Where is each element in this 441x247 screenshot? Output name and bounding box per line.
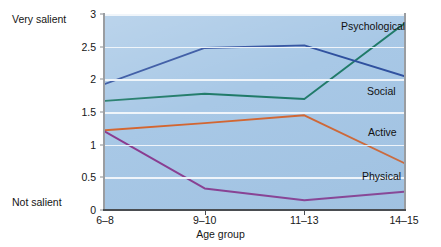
plot-right-border [404, 13, 406, 211]
x-axis-tick-label: 11–13 [290, 214, 318, 226]
y-axis-tick-label: 2.5 [81, 41, 96, 53]
y-axis-tick-label: 3 [90, 8, 96, 20]
y-axis-line [103, 13, 105, 211]
gridline [105, 145, 404, 147]
y-axis-tick-label: 0 [90, 204, 96, 216]
plot-area [105, 14, 404, 210]
x-axis-tick-label: 6–8 [96, 214, 114, 226]
y-axis-tick-label: 1 [90, 139, 96, 151]
gridline [105, 79, 404, 81]
y-axis-tick-label: 1.5 [81, 106, 96, 118]
series-label-psychological: Psychological [341, 20, 405, 32]
y-axis-ticks: 00.511.522.53 [0, 0, 105, 247]
gridline [105, 47, 404, 49]
x-axis-tick-label: 14–15 [389, 214, 418, 226]
series-label-social: Social [367, 85, 396, 97]
y-axis-tick-label: 2 [90, 73, 96, 85]
gridline [105, 14, 404, 16]
series-label-physical: Physical [362, 170, 401, 182]
salience-line-chart: Very salient Not salient 00.511.522.53 6… [0, 0, 441, 247]
gridline [105, 112, 404, 114]
x-axis-tick-label: 9–10 [193, 214, 216, 226]
x-axis-title: Age group [0, 228, 441, 240]
y-axis-tick-label: 0.5 [81, 171, 96, 183]
gridline [105, 177, 404, 179]
series-label-active: Active [368, 126, 397, 138]
x-axis-line [103, 209, 406, 211]
